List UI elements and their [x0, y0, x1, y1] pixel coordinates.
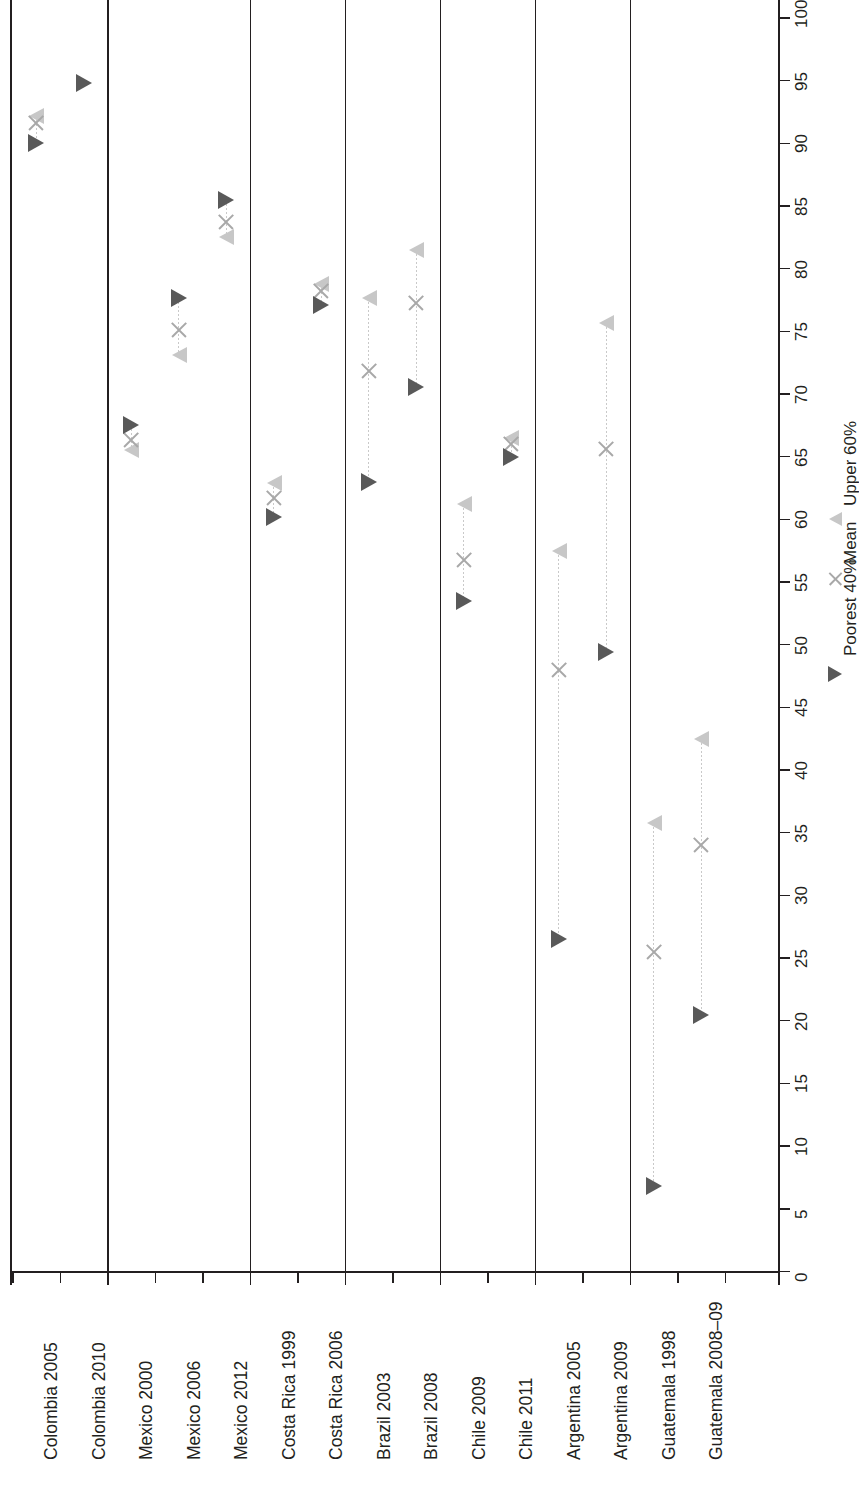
value-axis-line: [778, 0, 780, 1285]
group-separator: [10, 0, 12, 1285]
value-tick: [779, 769, 790, 770]
value-tick: [779, 331, 790, 332]
mark-poorest-40: [551, 930, 567, 948]
category-tick: [12, 1272, 13, 1283]
category-label-chile-2009: Chile 2009: [470, 1376, 488, 1460]
mark-mean: [216, 212, 236, 232]
legend-upper-60-icon: [829, 512, 842, 526]
mark-upper-60: [552, 543, 567, 559]
range-connector: [701, 739, 702, 1015]
value-tick: [779, 268, 790, 269]
category-axis-line: [10, 1271, 778, 1273]
mark-mean: [169, 320, 189, 340]
mark-mean: [454, 550, 474, 570]
value-tick: [779, 1145, 790, 1146]
mark-poorest-40: [361, 473, 377, 491]
category-label-guatemala-2008-09: Guatemala 2008–09: [707, 1301, 725, 1460]
mark-upper-60: [694, 731, 709, 747]
category-label-mexico-2012: Mexico 2012: [232, 1361, 250, 1460]
range-connector: [368, 298, 369, 482]
range-connector: [653, 823, 654, 1187]
value-tick-label: 60: [793, 510, 810, 529]
value-tick-label: 45: [793, 699, 810, 718]
mark-poorest-40: [171, 289, 187, 307]
group-separator: [630, 0, 632, 1285]
value-tick: [779, 1020, 790, 1021]
mark-upper-60: [362, 290, 377, 306]
mark-mean: [549, 660, 569, 680]
category-label-chile-2011: Chile 2011: [517, 1378, 535, 1460]
category-tick: [582, 1272, 583, 1283]
value-tick: [779, 895, 790, 896]
mark-mean: [406, 293, 426, 313]
category-label-costa-rica-1999: Costa Rica 1999: [280, 1331, 298, 1460]
category-label-mexico-2006: Mexico 2006: [185, 1361, 203, 1460]
value-tick: [779, 456, 790, 457]
value-tick: [779, 957, 790, 958]
value-tick: [779, 17, 790, 18]
mark-mean: [264, 488, 284, 508]
value-tick-label: 95: [793, 72, 810, 91]
value-tick-label: 40: [793, 761, 810, 780]
category-label-brazil-2008: Brazil 2008: [422, 1372, 440, 1460]
mark-poorest-40: [313, 296, 329, 314]
legend-label-mean: Mean: [842, 521, 859, 564]
category-tick: [487, 1272, 488, 1283]
value-tick: [779, 1083, 790, 1084]
legend-poorest-40-icon: [828, 666, 842, 682]
value-tick-label: 85: [793, 197, 810, 216]
value-tick-label: 75: [793, 322, 810, 341]
group-separator: [345, 0, 347, 1285]
mark-poorest-40: [408, 378, 424, 396]
value-tick: [779, 644, 790, 645]
mark-poorest-40: [218, 191, 234, 209]
category-label-colombia-2005: Colombia 2005: [42, 1342, 60, 1460]
range-connector: [416, 250, 417, 387]
value-tick: [779, 581, 790, 582]
value-tick-label: 25: [793, 949, 810, 968]
mark-upper-60: [409, 242, 424, 258]
mark-upper-60: [599, 315, 614, 331]
group-separator: [535, 0, 537, 1285]
mark-mean: [691, 835, 711, 855]
value-tick-label: 65: [793, 448, 810, 467]
group-separator: [250, 0, 252, 1285]
value-tick: [779, 205, 790, 206]
value-tick-label: 50: [793, 636, 810, 655]
category-tick: [155, 1272, 156, 1283]
mark-upper-60: [647, 815, 662, 831]
mark-poorest-40: [76, 74, 92, 92]
category-tick: [725, 1272, 726, 1283]
value-tick: [779, 393, 790, 394]
mark-poorest-40: [28, 134, 44, 152]
category-label-brazil-2003: Brazil 2003: [375, 1372, 393, 1460]
legend-label-upper-60: Upper 60%: [842, 421, 859, 506]
mark-upper-60: [457, 496, 472, 512]
legend-mean-icon: [827, 570, 844, 587]
value-tick-label: 90: [793, 134, 810, 153]
value-tick: [779, 1208, 790, 1209]
group-separator: [440, 0, 442, 1285]
category-tick: [677, 1272, 678, 1283]
value-tick: [779, 707, 790, 708]
value-tick-label: 15: [793, 1075, 810, 1094]
value-tick-label: 55: [793, 573, 810, 592]
mark-mean: [359, 361, 379, 381]
mark-mean: [596, 439, 616, 459]
mark-poorest-40: [598, 643, 614, 661]
value-tick-label: 20: [793, 1012, 810, 1031]
chart-figure: Colombia 2005Colombia 2010Mexico 2000Mex…: [0, 0, 859, 1496]
group-separator: [107, 0, 109, 1285]
mark-upper-60: [172, 347, 187, 363]
category-label-costa-rica-2006: Costa Rica 2006: [327, 1331, 345, 1460]
value-tick-label: 10: [793, 1137, 810, 1156]
value-tick-label: 100: [793, 0, 810, 28]
category-tick: [392, 1272, 393, 1283]
category-label-argentina-2005: Argentina 2005: [565, 1341, 583, 1460]
category-label-mexico-2000: Mexico 2000: [137, 1361, 155, 1460]
range-connector: [606, 323, 607, 653]
mark-poorest-40: [266, 508, 282, 526]
range-connector: [558, 551, 559, 940]
value-tick: [779, 80, 790, 81]
mark-poorest-40: [693, 1006, 709, 1024]
